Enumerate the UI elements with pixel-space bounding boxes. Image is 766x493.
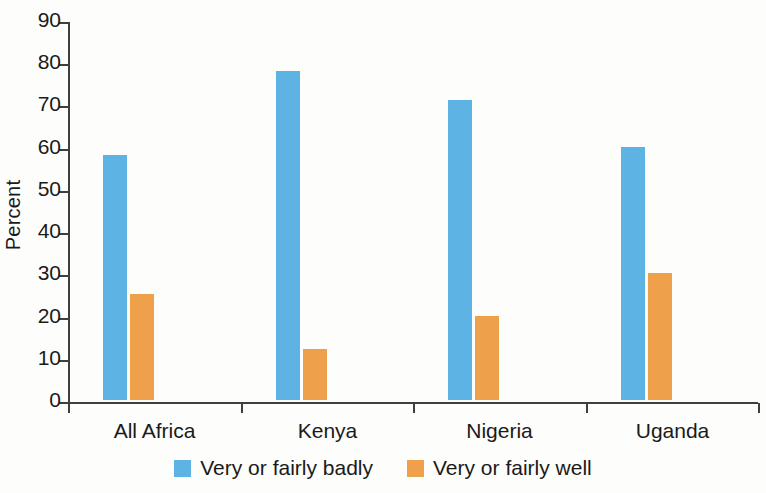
bar-nigeria-badly xyxy=(448,100,472,400)
legend-label: Very or fairly well xyxy=(433,457,592,479)
plot-area: 9080706050403020100 All AfricaKenyaNiger… xyxy=(68,22,758,402)
legend-item-well: Very or fairly well xyxy=(407,457,592,479)
bar-kenya-badly xyxy=(276,71,300,400)
bar-all-africa-well xyxy=(130,294,154,400)
y-tick-label: 30 xyxy=(38,262,61,283)
y-tick-label: 80 xyxy=(38,51,61,72)
bar-all-africa-badly xyxy=(103,155,127,400)
y-tick-label: 90 xyxy=(38,9,61,30)
legend-item-badly: Very or fairly badly xyxy=(174,457,373,479)
y-tick-label: 20 xyxy=(38,305,61,326)
y-tick-label: 40 xyxy=(38,220,61,241)
category-label-kenya: Kenya xyxy=(241,420,414,442)
y-axis-line xyxy=(68,22,70,403)
legend: Very or fairly badlyVery or fairly well xyxy=(0,457,766,479)
y-axis-title: Percent xyxy=(2,150,25,280)
y-tick-label: 60 xyxy=(38,136,61,157)
x-tick-mark xyxy=(68,403,70,413)
y-tick-label: 10 xyxy=(38,347,61,368)
legend-swatch-icon xyxy=(407,460,424,477)
bar-kenya-well xyxy=(303,349,327,400)
y-tick-label: 0 xyxy=(49,389,61,410)
y-tick-label: 50 xyxy=(38,178,61,199)
x-tick-mark xyxy=(586,403,588,413)
bar-nigeria-well xyxy=(475,316,499,400)
x-tick-mark xyxy=(241,403,243,413)
category-label-uganda: Uganda xyxy=(586,420,759,442)
x-tick-mark xyxy=(758,403,760,413)
category-label-all-africa: All Africa xyxy=(68,420,241,442)
y-tick-label: 70 xyxy=(38,93,61,114)
category-label-nigeria: Nigeria xyxy=(413,420,586,442)
x-tick-mark xyxy=(413,403,415,413)
bar-chart: Percent 9080706050403020100 All AfricaKe… xyxy=(0,0,766,493)
bar-uganda-well xyxy=(648,273,672,400)
legend-label: Very or fairly badly xyxy=(200,457,373,479)
legend-swatch-icon xyxy=(174,460,191,477)
bar-uganda-badly xyxy=(621,147,645,400)
